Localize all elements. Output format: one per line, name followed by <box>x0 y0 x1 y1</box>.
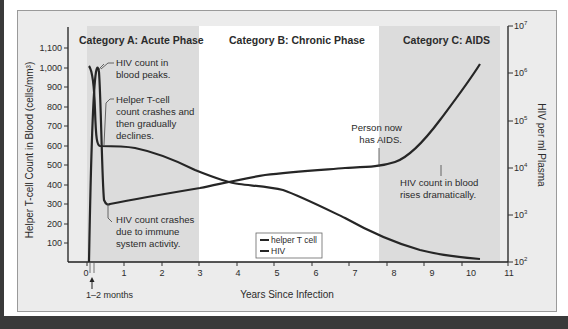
legend-label-hiv: HIV <box>271 246 286 256</box>
svg-text:4: 4 <box>235 268 240 278</box>
annotation-hiv-rise: HIV count in bloodrises dramatically. <box>400 177 478 200</box>
annotation-aids: Person nowhas AIDS. <box>351 122 402 145</box>
region-title-b: Category B: Chronic Phase <box>229 34 365 46</box>
region-chronic <box>199 26 379 262</box>
region-title-c: Category C: AIDS <box>403 34 490 46</box>
x-axis-title: Years Since Infection <box>240 289 334 300</box>
legend: helper T cell HIV <box>256 233 322 258</box>
region-title-a: Category A: Acute Phase <box>79 34 204 46</box>
svg-text:300: 300 <box>47 199 62 209</box>
svg-text:6: 6 <box>313 268 318 278</box>
svg-text:200: 200 <box>47 219 62 229</box>
svg-text:1,000: 1,000 <box>39 63 62 73</box>
svg-text:2: 2 <box>159 268 164 278</box>
legend-label-tcell: helper T cell <box>271 235 317 245</box>
x-ticks: 0 1 2 3 4 5 6 7 8 9 10 11 <box>83 262 513 278</box>
svg-text:1–2 months: 1–2 months <box>86 290 134 300</box>
svg-text:100: 100 <box>47 238 62 248</box>
svg-text:5: 5 <box>274 268 279 278</box>
y-ticks-left: 100 200 300 400 500 600 700 800 900 1,00… <box>39 43 68 248</box>
svg-text:1: 1 <box>121 268 126 278</box>
svg-text:104: 104 <box>514 162 528 173</box>
y2-axis-title: HIV per ml Plasma <box>536 103 547 187</box>
svg-text:600: 600 <box>47 141 62 151</box>
up-arrow-icon <box>90 277 95 282</box>
svg-text:107: 107 <box>514 20 528 31</box>
svg-text:400: 400 <box>47 180 62 190</box>
svg-text:9: 9 <box>429 268 434 278</box>
svg-text:1,100: 1,100 <box>39 43 62 53</box>
svg-text:105: 105 <box>514 115 528 126</box>
svg-text:8: 8 <box>391 268 396 278</box>
svg-text:7: 7 <box>352 268 357 278</box>
svg-text:3: 3 <box>197 268 202 278</box>
svg-text:800: 800 <box>47 102 62 112</box>
y-ticks-right: 107 106 105 104 103 102 <box>508 20 528 267</box>
annotation-peak: HIV count inblood peaks. <box>116 57 170 80</box>
hiv-progression-chart: Category A: Acute Phase Category B: Chro… <box>0 0 568 329</box>
svg-text:0: 0 <box>83 268 88 278</box>
svg-text:500: 500 <box>47 160 62 170</box>
svg-text:106: 106 <box>514 67 528 78</box>
svg-text:900: 900 <box>47 82 62 92</box>
y-axis-title: Helper T-cell Count in Blood (cells/mm³) <box>24 62 35 239</box>
svg-text:11: 11 <box>504 268 513 278</box>
svg-text:10: 10 <box>466 268 476 278</box>
svg-text:700: 700 <box>47 121 62 131</box>
svg-text:103: 103 <box>514 209 528 220</box>
svg-text:102: 102 <box>514 256 528 267</box>
